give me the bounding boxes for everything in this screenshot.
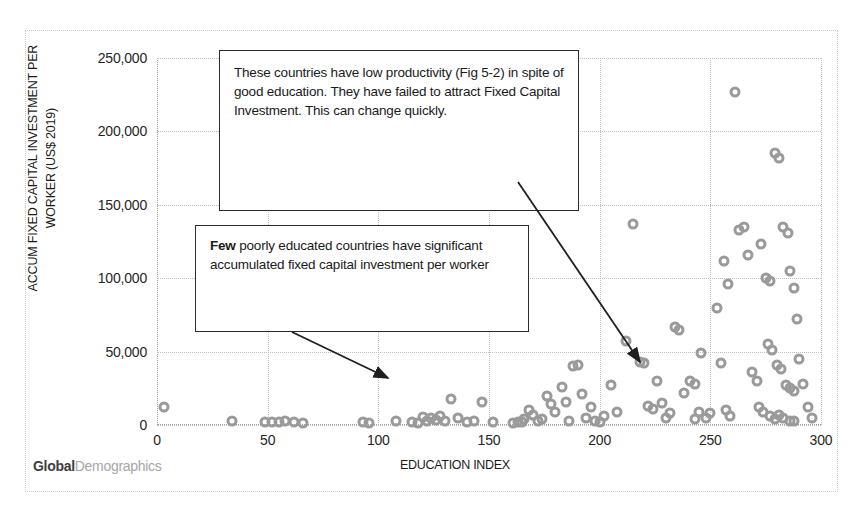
x-axis-tick-labels: 050100150200250300: [157, 432, 821, 454]
x-tick-label: 0: [153, 432, 161, 448]
data-point-marker: [789, 416, 800, 427]
data-point-marker: [621, 336, 632, 347]
data-point-marker: [561, 396, 572, 407]
data-point-marker: [638, 358, 649, 369]
data-point-marker: [718, 255, 729, 266]
data-point-marker: [723, 279, 734, 290]
y-tick-label: 0: [139, 417, 147, 433]
data-point-marker: [557, 381, 568, 392]
watermark-bold: Global: [33, 458, 75, 474]
gridline-vertical: [821, 58, 822, 425]
y-tick-label: 150,000: [98, 197, 147, 213]
data-point-marker: [689, 378, 700, 389]
data-point-marker: [550, 406, 561, 417]
data-point-marker: [488, 416, 499, 427]
y-tick-label: 200,000: [98, 123, 147, 139]
data-point-marker: [439, 416, 450, 427]
data-point-marker: [585, 402, 596, 413]
data-point-marker: [711, 302, 722, 313]
data-point-marker: [665, 408, 676, 419]
data-point-marker: [742, 249, 753, 260]
annotation-lead-bold: Few: [210, 238, 236, 253]
y-tick-label: 100,000: [98, 270, 147, 286]
data-point-marker: [537, 413, 548, 424]
data-point-marker: [656, 397, 667, 408]
chart-figure: ACCUM FIXED CAPITAL INVESTMENT PER WORKE…: [0, 0, 865, 520]
data-point-marker: [798, 378, 809, 389]
x-tick-label: 250: [699, 432, 722, 448]
gridline-vertical: [600, 58, 601, 425]
data-point-marker: [725, 411, 736, 422]
data-point-marker: [785, 265, 796, 276]
data-point-marker: [391, 416, 402, 427]
data-point-marker: [446, 393, 457, 404]
data-point-marker: [477, 396, 488, 407]
data-point-marker: [612, 406, 623, 417]
x-tick-label: 200: [588, 432, 611, 448]
data-point-marker: [807, 412, 818, 423]
data-point-marker: [773, 152, 784, 163]
x-tick-label: 150: [478, 432, 501, 448]
data-point-marker: [627, 218, 638, 229]
data-point-marker: [158, 402, 169, 413]
gridline-vertical: [710, 58, 711, 425]
data-point-marker: [563, 416, 574, 427]
data-point-marker: [576, 389, 587, 400]
data-point-marker: [756, 239, 767, 250]
data-point-marker: [789, 283, 800, 294]
data-point-marker: [705, 408, 716, 419]
watermark-global-demographics: GlobalDemographics: [33, 458, 161, 474]
data-point-marker: [696, 348, 707, 359]
annotation-body-text: poorly educated countries have significa…: [210, 238, 489, 272]
data-point-marker: [751, 375, 762, 386]
data-point-marker: [674, 324, 685, 335]
data-point-marker: [599, 411, 610, 422]
y-axis-tick-labels: 050,000100,000150,000200,000250,000: [95, 58, 147, 425]
data-point-marker: [738, 221, 749, 232]
data-point-marker: [605, 380, 616, 391]
data-point-marker: [776, 364, 787, 375]
data-point-marker: [729, 86, 740, 97]
y-axis-line: [157, 58, 158, 425]
data-point-marker: [572, 359, 583, 370]
data-point-marker: [765, 276, 776, 287]
y-tick-label: 50,000: [105, 344, 147, 360]
y-tick-label: 250,000: [98, 50, 147, 66]
data-point-marker: [791, 314, 802, 325]
data-point-marker: [694, 406, 705, 417]
y-axis-title: ACCUM FIXED CAPITAL INVESTMENT PER WORKE…: [24, 18, 60, 318]
annotation-callout-productivity: These countries have low productivity (F…: [219, 50, 579, 211]
data-point-marker: [468, 416, 479, 427]
data-point-marker: [413, 417, 424, 428]
x-axis-title: EDUCATION INDEX: [400, 458, 510, 472]
data-point-marker: [364, 418, 375, 429]
data-point-marker: [227, 416, 238, 427]
data-point-marker: [652, 375, 663, 386]
data-point-marker: [678, 387, 689, 398]
x-tick-label: 100: [367, 432, 390, 448]
annotation-callout-poorly-educated: Few poorly educated countries have signi…: [195, 225, 529, 332]
x-tick-label: 300: [810, 432, 833, 448]
watermark-light: Demographics: [75, 458, 162, 474]
data-point-marker: [716, 358, 727, 369]
data-point-marker: [782, 227, 793, 238]
data-point-marker: [767, 345, 778, 356]
x-tick-label: 50: [260, 432, 275, 448]
data-point-marker: [298, 417, 309, 428]
data-point-marker: [793, 353, 804, 364]
